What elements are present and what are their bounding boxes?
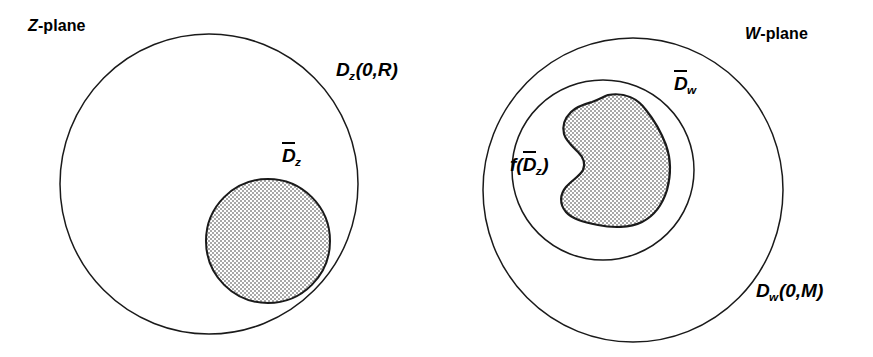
w-plane-group [483,38,783,342]
z-plane-title-var: Z [28,17,38,34]
z-outer-disk-args: (0,R) [356,59,398,80]
w-plane-title: W-plane [745,26,808,42]
z-inner-disk-overline: D [282,146,296,165]
figure-canvas: Z-plane Dz(0,R) Dz W-plane Dw f(Dz) Dw(0… [0,0,873,357]
w-image-blob [561,94,670,227]
z-plane-title-suffix: -plane [38,17,86,34]
z-inner-disk-label: Dz [282,146,302,165]
w-middle-disk-subscript: w [687,83,696,96]
z-plane-title: Z-plane [28,18,86,34]
w-plane-title-var: W [745,25,760,42]
z-inner-disk-subscript: z [295,155,301,168]
w-middle-disk-overline: D [674,74,688,93]
w-image-region-subscript: z [536,164,542,177]
z-outer-disk-subscript: z [349,69,355,82]
w-outer-disk-args: (0,M) [779,280,823,301]
z-outer-circle [60,34,358,334]
diagram-svg [0,0,873,357]
w-outer-disk-label: Dw(0,M) [756,281,823,300]
z-outer-disk-label: Dz(0,R) [336,60,398,79]
w-image-region-overline: D [523,155,537,174]
w-outer-disk-subscript: w [769,290,778,303]
z-plane-group [60,34,358,334]
w-plane-title-suffix: -plane [760,25,808,42]
z-inner-shaded-disk [206,179,330,303]
w-middle-disk-label: Dw [674,74,697,93]
w-image-region-label: f(Dz) [510,155,549,174]
w-image-region-suffix: ) [542,154,548,175]
w-image-region-prefix: f( [510,154,523,175]
